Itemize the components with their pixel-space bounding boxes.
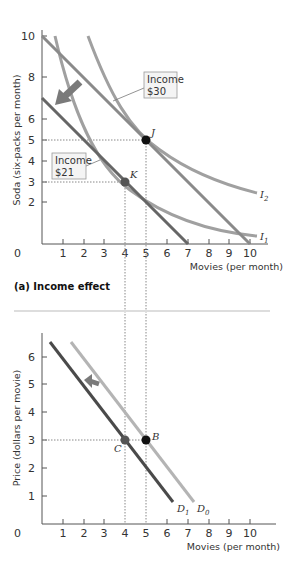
x-tick-label: 5 [143, 527, 150, 540]
x-tick-label: 3 [101, 247, 108, 260]
point-c-label: C [114, 443, 122, 454]
x-tick-label: 4 [122, 527, 129, 540]
x-axis-label-b: Movies (per month) [187, 541, 280, 552]
x-tick-label: 6 [164, 247, 171, 260]
income-21-line2: $21 [55, 167, 74, 178]
x-tick-label: 3 [101, 527, 108, 540]
y-tick-label: 8 [28, 71, 35, 84]
panel-a: 10 8 6 5 4 3 2 0 1 2 3 4 5 6 7 8 9 10 Mo… [11, 30, 283, 524]
y-tick-label: 2 [28, 462, 35, 475]
y-tick-label: 5 [28, 378, 35, 391]
y-tick-label: 6 [28, 351, 35, 364]
y-tick-label: 3 [28, 176, 35, 189]
indifference-curve-i1 [55, 36, 257, 236]
i1-label: I1 [259, 231, 268, 245]
x-tick-label: 9 [226, 527, 233, 540]
origin-label-a: 0 [14, 247, 21, 260]
x-ticks-b [63, 519, 250, 524]
x-tick-label: 7 [185, 247, 192, 260]
y-tick-label: 1 [28, 490, 35, 503]
y-tick-label: 6 [28, 113, 35, 126]
y-ticks-b [42, 357, 47, 496]
y-tick-label: 10 [21, 30, 35, 43]
panel-a-title: (a) Income effect [14, 281, 110, 292]
y-tick-label: 2 [28, 196, 35, 209]
x-tick-label: 1 [60, 527, 67, 540]
x-tick-label: 6 [164, 527, 171, 540]
income-effect-figure: 10 8 6 5 4 3 2 0 1 2 3 4 5 6 7 8 9 10 Mo… [0, 0, 298, 562]
income-30-line2: $30 [147, 86, 166, 97]
demand-curve-d0 [71, 342, 194, 502]
y-axis-label-a: Soda (six-packs per month) [11, 75, 22, 206]
x-axis-label-a: Movies (per month) [190, 261, 283, 272]
i2-label: I2 [259, 189, 269, 203]
point-c [121, 436, 130, 445]
point-j-label: J [149, 127, 156, 138]
guide-lines-a [42, 140, 146, 524]
y-tick-label: 3 [28, 434, 35, 447]
point-k-label: K [129, 169, 138, 180]
income-30-leader [113, 88, 144, 101]
x-tick-label: 2 [81, 527, 88, 540]
point-k [121, 178, 130, 187]
x-tick-label: 2 [81, 247, 88, 260]
point-j [142, 136, 151, 145]
x-tick-label: 8 [206, 247, 213, 260]
x-tick-label: 1 [60, 247, 67, 260]
y-tick-label: 4 [28, 406, 35, 419]
x-tick-label: 10 [243, 247, 257, 260]
y-tick-label: 4 [28, 155, 35, 168]
x-tick-label: 9 [226, 247, 233, 260]
income-21-line1: Income [55, 155, 92, 166]
income-30-line1: Income [147, 74, 184, 85]
point-b-label: B [151, 431, 159, 442]
d0-label: D0 [196, 503, 210, 517]
point-b [142, 436, 151, 445]
d1-label: D1 [176, 503, 190, 517]
x-tick-label: 10 [243, 527, 257, 540]
origin-label-b: 0 [14, 527, 21, 540]
x-tick-label: 8 [206, 527, 213, 540]
y-ticks-a [42, 36, 47, 202]
x-tick-label: 7 [185, 527, 192, 540]
x-ticks-a [63, 239, 250, 244]
y-axis-label-b: Price (dollars per movie) [11, 370, 22, 486]
y-tick-label: 5 [28, 134, 35, 147]
demand-curve-d1 [50, 342, 173, 502]
